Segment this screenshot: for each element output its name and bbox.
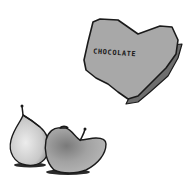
apple — [45, 127, 106, 176]
pear-body — [10, 115, 48, 165]
apple-body — [45, 128, 106, 173]
chocolate-box-top — [84, 19, 178, 99]
still-life-illustration: CHOCOLATE — [0, 0, 190, 188]
pear — [10, 105, 48, 168]
chocolate-box: CHOCOLATE — [84, 19, 182, 104]
